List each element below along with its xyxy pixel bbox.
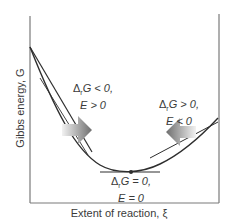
annotation-forward: ΔrG < 0, E > 0: [64, 82, 122, 111]
x-axis-label: Extent of reaction, ξ: [28, 207, 210, 219]
equilibrium-point: [129, 170, 133, 174]
annotation-reverse: ΔrG > 0, E < 0: [150, 98, 208, 127]
y-axis-label: Gibbs energy, G: [14, 53, 26, 163]
annotation-equilibrium: ΔrG = 0, E = 0: [102, 175, 160, 204]
